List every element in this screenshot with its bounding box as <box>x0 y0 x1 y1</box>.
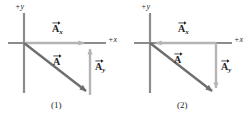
vector-a-arrow-2 <box>150 43 212 91</box>
diagram-1-graphic <box>0 0 126 119</box>
figure-root: +y +x Ax A <box>0 0 252 119</box>
vector-a-arrow-1 <box>24 43 86 91</box>
diagram-2-graphic <box>126 0 252 119</box>
diagram-panel-1: +y +x Ax A <box>0 0 126 119</box>
diagram-panel-2: +y +x Ax A <box>126 0 252 119</box>
